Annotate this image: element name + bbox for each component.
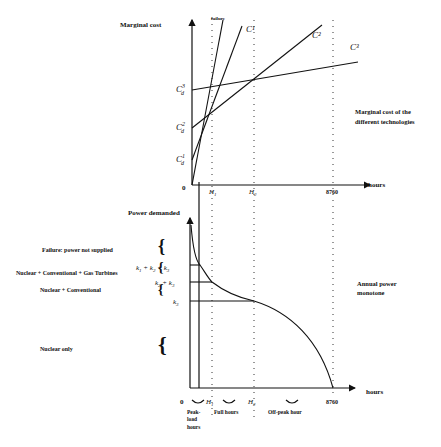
failure-cost-line — [192, 20, 223, 185]
band-nuclear-conv: Nuclear + Conventional — [40, 287, 101, 293]
bottom-origin: 0 — [180, 398, 184, 406]
k3-label: k3 — [173, 298, 179, 307]
full-brace — [223, 400, 235, 403]
top-h1-tick: H1 — [208, 188, 217, 197]
c2-line — [192, 25, 322, 128]
k23-label: k2 + k3 — [155, 279, 175, 288]
offpeak-brace — [286, 400, 298, 403]
cd2-label: C2d — [176, 121, 185, 134]
full-hours-label: Full hours — [214, 409, 238, 415]
marginal-cost-annotation-line1: Marginal cost of the — [355, 108, 411, 115]
bottom-y-axis-label: Power demanded — [128, 209, 180, 217]
band-nuclear-conv-gas: Nuclear + Conventional + Gas Turbines — [16, 270, 118, 276]
annual-power-label-line1: Annual power — [357, 280, 397, 287]
top-origin: 0 — [182, 184, 186, 192]
peak-label-2: load — [187, 416, 197, 422]
offpeak-label: Off-peak hour — [268, 409, 302, 415]
band-failure: Failure: power not supplied — [42, 247, 114, 253]
top-8760-tick: 8760 — [326, 189, 338, 195]
bottom-8760-tick: 8760 — [326, 399, 338, 405]
top-chart: failure C¹ C² C³ C3d C2d C1d Marginal co… — [120, 16, 415, 420]
c2-label: C² — [312, 30, 321, 40]
c1-line — [192, 26, 242, 160]
annual-power-label-line2: monotone — [357, 289, 385, 296]
peak-brace — [192, 400, 204, 403]
peak-label-1: Peak- — [187, 409, 201, 415]
bottom-chart: Power demanded { { { { Failure: power no… — [16, 182, 397, 430]
k123-label: k1 + k2 + k3 — [136, 264, 170, 273]
c3-line — [192, 62, 358, 90]
top-h2-tick: H2 — [248, 188, 257, 197]
top-y-axis-label: Marginal cost — [120, 21, 162, 29]
marginal-cost-diagram: failure C¹ C² C³ C3d C2d C1d Marginal co… — [0, 0, 441, 447]
bottom-h2-tick: H2 — [247, 398, 256, 407]
bottom-x-axis-label: hours — [366, 388, 383, 396]
bottom-h1-tick: H1 — [205, 398, 214, 407]
top-x-axis-label: hours — [368, 181, 385, 189]
failure-label: failure — [211, 16, 226, 21]
band-nuclear-only: Nuclear only — [40, 346, 73, 352]
peak-label-3: hours — [187, 424, 200, 430]
c1-label: C¹ — [246, 24, 255, 34]
marginal-cost-annotation-line2: different technologies — [355, 118, 415, 125]
cd3-label: C3d — [176, 83, 185, 96]
failure-brace: { — [158, 236, 165, 256]
cd1-label: C1d — [176, 153, 185, 166]
c3-label: C³ — [350, 42, 359, 52]
nuclear-brace: { — [158, 332, 167, 357]
